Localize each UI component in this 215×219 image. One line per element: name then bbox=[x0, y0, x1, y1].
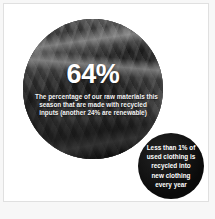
secondary-stat-line-2: used clothing is bbox=[147, 152, 196, 161]
main-stat-description-line-1: The percentage of our raw materials this bbox=[35, 93, 151, 101]
secondary-stat-line-4: new clothing bbox=[147, 171, 196, 180]
page-root: 64% The percentage of our raw materials … bbox=[0, 0, 215, 219]
secondary-stat-text: Less than 1% of used clothing is recycle… bbox=[145, 143, 198, 189]
secondary-stat-line-1: Less than 1% of bbox=[147, 143, 196, 152]
secondary-stat-circle: Less than 1% of used clothing is recycle… bbox=[138, 133, 204, 199]
infographic-card: 64% The percentage of our raw materials … bbox=[3, 3, 209, 202]
main-stat-description: The percentage of our raw materials this… bbox=[29, 93, 157, 118]
main-stat-value: 64% bbox=[29, 61, 157, 88]
main-stat-photo-circle: 64% The percentage of our raw materials … bbox=[23, 19, 163, 159]
secondary-stat-line-5: every year bbox=[147, 180, 196, 189]
main-stat-caption: 64% The percentage of our raw materials … bbox=[23, 61, 163, 118]
secondary-stat-line-3: recycled into bbox=[147, 161, 196, 170]
main-stat-description-line-3: inputs (another 24% are renewable) bbox=[35, 109, 151, 117]
